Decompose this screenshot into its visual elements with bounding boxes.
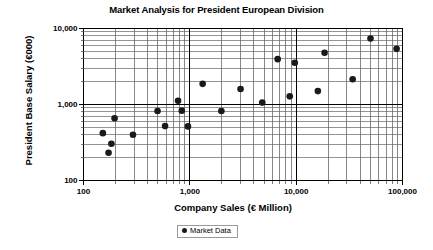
data-point xyxy=(349,76,356,83)
data-point xyxy=(367,35,374,42)
legend-marker-icon xyxy=(182,228,187,233)
data-point xyxy=(199,81,206,88)
data-point xyxy=(162,123,169,130)
data-point xyxy=(237,86,244,93)
x-tick-label: 1,000 xyxy=(160,187,220,196)
x-axis-title: Company Sales (€ Million) xyxy=(60,202,406,213)
y-tick-label: 10,000 xyxy=(34,24,78,33)
legend-label: Market Data xyxy=(190,227,231,235)
data-point xyxy=(111,115,118,122)
data-point xyxy=(259,99,266,106)
chart-container: Market Analysis for President European D… xyxy=(0,0,433,250)
data-point xyxy=(108,140,115,147)
data-point xyxy=(291,59,298,66)
data-point xyxy=(130,131,137,138)
data-point xyxy=(185,123,192,130)
x-tick-label: 10,000 xyxy=(266,187,326,196)
data-point xyxy=(175,97,182,104)
data-point xyxy=(105,149,112,156)
data-point xyxy=(315,88,322,95)
data-point xyxy=(274,56,281,63)
y-tick-label: 100 xyxy=(34,176,78,185)
y-tick-label: 1,000 xyxy=(34,100,78,109)
data-point xyxy=(178,107,185,114)
chart-legend: Market Data xyxy=(177,225,238,238)
data-point xyxy=(154,108,161,115)
data-point xyxy=(286,93,293,100)
data-point xyxy=(321,49,328,56)
data-point xyxy=(100,130,107,137)
x-tick-label: 100 xyxy=(54,187,114,196)
data-point xyxy=(218,108,225,115)
x-tick-label: 100,000 xyxy=(373,187,433,196)
data-point xyxy=(393,46,400,53)
